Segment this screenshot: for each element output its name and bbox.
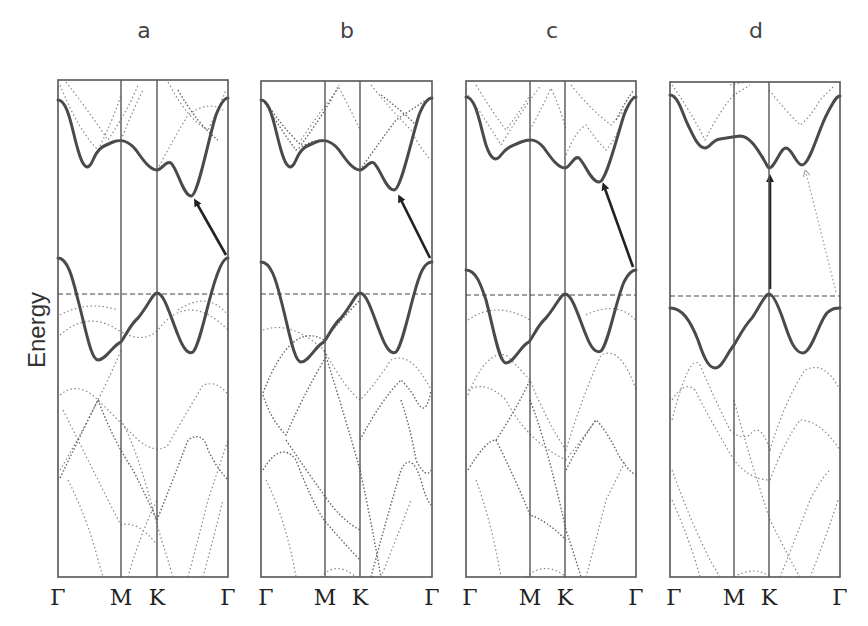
panel-title-a: a — [137, 18, 150, 43]
panel-c: c — [466, 18, 636, 577]
indirect-transition-arrow-faint — [806, 173, 836, 292]
panel-title-b: b — [340, 18, 354, 43]
projected-bands — [672, 82, 840, 577]
panel-b: b — [261, 18, 432, 577]
tick-m: M — [519, 585, 542, 610]
panel-title-d: d — [749, 18, 763, 43]
valence-band — [670, 294, 840, 368]
tick-k: K — [149, 585, 166, 610]
conduction-band — [261, 98, 432, 190]
tick-gamma: Γ — [666, 585, 681, 610]
tick-m: M — [314, 585, 337, 610]
valence-band — [261, 262, 432, 362]
indirect-transition-arrow — [400, 198, 430, 258]
indirect-transition-arrow — [196, 202, 226, 255]
k-path-labels: Γ M K Γ Γ M K Γ Γ M K Γ Γ M K Γ — [50, 585, 847, 610]
conduction-band — [670, 95, 840, 168]
tick-k: K — [761, 585, 778, 610]
panel-title-c: c — [546, 18, 558, 43]
tick-gamma: Γ — [424, 585, 439, 610]
tick-gamma: Γ — [220, 585, 235, 610]
band-structure-figure: Energy a — [0, 0, 868, 626]
valence-band — [466, 270, 636, 363]
tick-k: K — [557, 585, 574, 610]
indirect-transition-arrow — [604, 186, 633, 267]
panel-a: a — [58, 18, 228, 577]
tick-m: M — [110, 585, 133, 610]
tick-gamma: Γ — [832, 585, 847, 610]
tick-m: M — [723, 585, 746, 610]
conduction-band — [58, 98, 228, 196]
tick-gamma: Γ — [258, 585, 273, 610]
panel-d: d — [670, 18, 840, 577]
tick-gamma: Γ — [462, 585, 477, 610]
valence-band — [58, 258, 228, 360]
tick-k: K — [352, 585, 369, 610]
tick-gamma: Γ — [50, 585, 65, 610]
tick-gamma: Γ — [628, 585, 643, 610]
y-axis-label: Energy — [23, 292, 50, 368]
